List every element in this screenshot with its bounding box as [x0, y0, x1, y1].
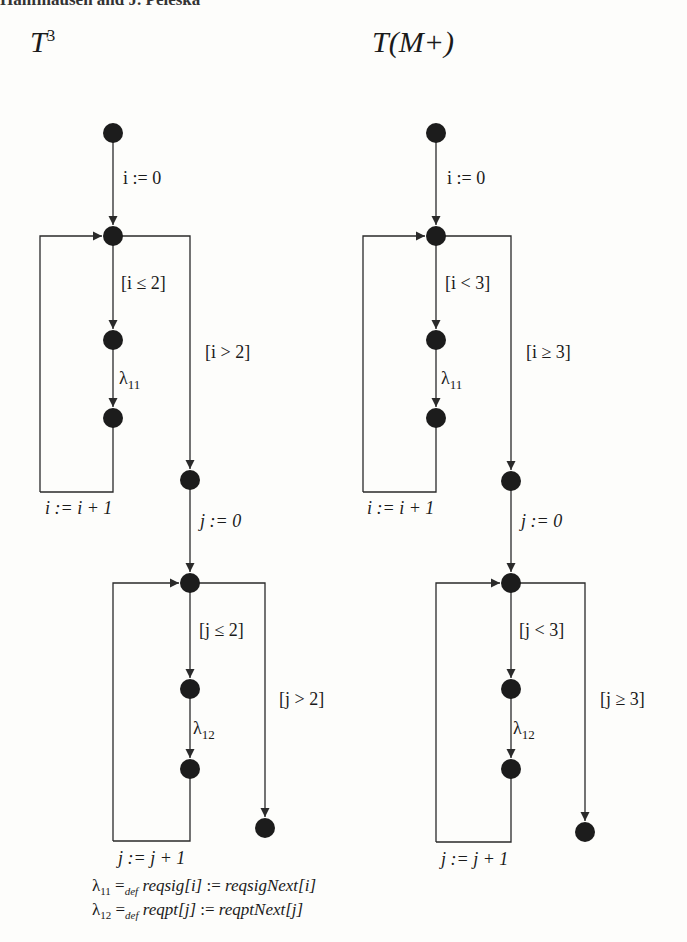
label-guard-in: [i < 3] — [445, 273, 490, 293]
definition-lambda11: λ11 =def reqsig[i] := reqsigNext[i] — [92, 876, 316, 897]
node-end — [575, 822, 595, 842]
edge-loop2-back — [436, 583, 500, 842]
node-loop1-after-action — [426, 408, 446, 428]
flow-diagrams: i := 0 [i ≤ 2] [i > 2] λ11 i := i + 1 j … — [0, 0, 687, 942]
label-init: i := 0 — [447, 168, 485, 188]
label-action2: λ12 — [513, 718, 535, 742]
diagram-tm — [363, 133, 585, 842]
node-loop1-body — [426, 330, 446, 350]
edge-incr1 — [40, 418, 113, 492]
node-loop1-exit — [501, 471, 521, 491]
label-incr1: i := i + 1 — [367, 498, 434, 518]
edge-loop-back — [40, 236, 102, 492]
node-loop1-head — [103, 226, 123, 246]
node-start — [426, 123, 446, 143]
label-action1: λ11 — [119, 368, 140, 392]
label-action2: λ12 — [193, 718, 215, 742]
node-loop1-body — [103, 330, 123, 350]
edge-incr2 — [436, 769, 511, 842]
edge-incr2 — [113, 769, 190, 841]
node-loop2-body — [180, 679, 200, 699]
node-loop1-after-action — [103, 408, 123, 428]
node-loop1-exit — [180, 470, 200, 490]
edge-guard-out — [113, 236, 190, 469]
node-end — [255, 818, 275, 838]
label-incr2: j := j + 1 — [439, 849, 508, 869]
node-loop2-head — [180, 573, 200, 593]
label-guard-in: [i ≤ 2] — [121, 273, 166, 293]
label-incr1: i := i + 1 — [45, 498, 112, 518]
node-loop2-after-action — [501, 759, 521, 779]
node-loop1-head — [426, 226, 446, 246]
diagram-t3 — [40, 133, 265, 841]
node-loop2-head — [501, 573, 521, 593]
label-init: i := 0 — [123, 168, 161, 188]
label-init2: j := 0 — [198, 511, 241, 531]
edge-loop-back — [363, 236, 425, 492]
label-guard2-in: [j ≤ 2] — [199, 620, 244, 640]
node-loop2-body — [501, 679, 521, 699]
edge-guard2-out — [190, 583, 265, 817]
edge-incr1 — [363, 418, 436, 492]
label-init2: j := 0 — [519, 511, 562, 531]
label-action1: λ11 — [441, 368, 462, 392]
label-incr2: j := j + 1 — [116, 848, 185, 868]
edge-loop2-back — [113, 583, 179, 841]
label-guard-out: [i > 2] — [205, 342, 250, 362]
label-guard2-out: [j ≥ 3] — [600, 689, 645, 709]
label-guard2-in: [j < 3] — [519, 620, 564, 640]
nodes-t3 — [103, 123, 275, 838]
label-guard2-out: [j > 2] — [279, 689, 324, 709]
node-loop2-after-action — [180, 759, 200, 779]
edge-guard2-out — [511, 583, 585, 821]
edge-guard-out — [436, 236, 511, 470]
definition-lambda12: λ12 =def reqpt[j] := reqptNext[j] — [92, 900, 303, 921]
node-start — [103, 123, 123, 143]
label-guard-out: [i ≥ 3] — [526, 342, 571, 362]
